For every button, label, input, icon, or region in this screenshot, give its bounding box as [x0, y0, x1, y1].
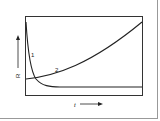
curve-1 — [26, 22, 142, 87]
x-axis-label: t — [74, 102, 76, 108]
curve-1-label: 1 — [31, 52, 35, 58]
y-axis-label: R — [15, 73, 21, 78]
plot-box — [26, 17, 143, 96]
plot: 1 2 R t — [0, 0, 160, 121]
x-axis-arrowhead-icon — [98, 102, 103, 106]
y-axis-arrowhead-icon — [16, 35, 20, 40]
curve-2 — [26, 22, 142, 79]
